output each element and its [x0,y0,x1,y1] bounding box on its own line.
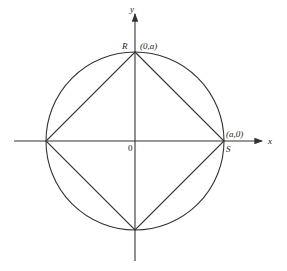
point-s-label: S [226,144,231,154]
x-axis-label: x [267,136,272,146]
point-s-coords: (a,0) [226,129,243,139]
point-r-label: R [121,41,128,51]
y-axis-label: y [129,4,134,14]
square-in-circle-diagram: y x 0 R (0,a) (a,0) S [0,0,287,271]
point-r-coords: (0,a) [140,41,157,51]
origin-label: 0 [128,143,133,153]
